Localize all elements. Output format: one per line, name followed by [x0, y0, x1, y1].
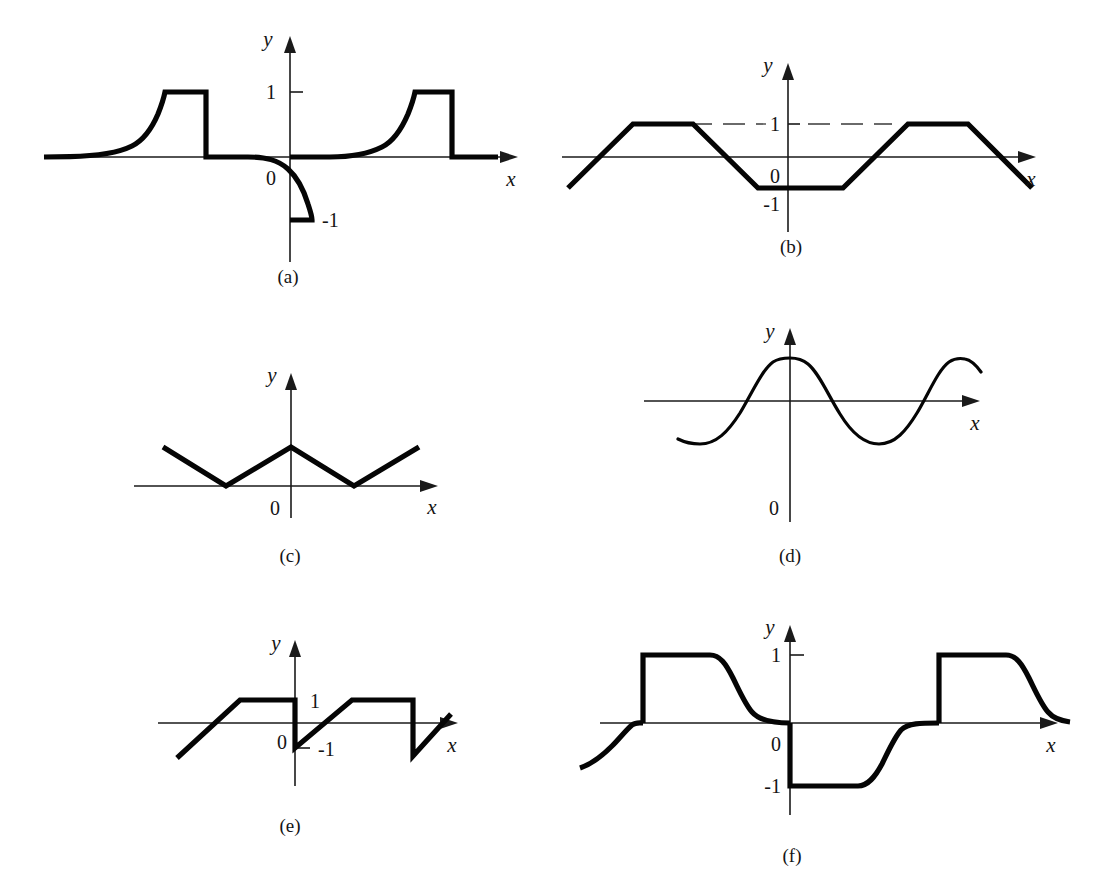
x-axis-c: [134, 480, 438, 492]
y-axis-b: [782, 63, 794, 232]
tick-label-zero-a: 0: [266, 167, 276, 189]
curve-a: [44, 92, 312, 220]
tick-label-zero-d: 0: [769, 497, 779, 519]
curve-f-negative: [790, 723, 939, 786]
caption-f: (f): [783, 845, 802, 867]
caption-b: (b): [780, 236, 802, 258]
y-axis-label-f: y: [763, 615, 775, 639]
tick-label-one-f: 1: [771, 644, 781, 666]
y-axis-label-d: y: [763, 319, 775, 343]
x-axis-label-d: x: [969, 411, 980, 435]
y-axis-label-c: y: [265, 363, 277, 387]
tick-label-one-e: 1: [310, 690, 320, 712]
x-axis-f: [600, 717, 1058, 729]
tick-label-neg-one-a: -1: [322, 209, 339, 231]
curve-b: [568, 124, 1032, 188]
caption-a: (a): [277, 266, 298, 288]
x-axis-label-e: x: [446, 733, 457, 757]
tick-label-zero-c: 0: [270, 497, 280, 519]
tick-label-one-b: 1: [770, 113, 780, 135]
caption-e: (e): [279, 815, 300, 837]
tick-label-one-a: 1: [266, 81, 276, 103]
tick-label-neg-one-f: -1: [764, 775, 781, 797]
panel-b: y x 1 0 -1 (b): [540, 0, 1108, 300]
caption-d: (d): [779, 545, 801, 567]
tick-label-zero-e: 0: [277, 731, 287, 753]
panel-d: y x 0 (d): [540, 300, 1108, 590]
curve-f-left-tail: [580, 723, 643, 768]
x-axis-label-f: x: [1045, 733, 1056, 757]
panel-f: y x 1 0 -1 (f): [540, 590, 1108, 887]
x-axis-d: [644, 395, 980, 407]
tick-label-zero-f: 0: [771, 733, 781, 755]
panel-c: y x 0 (c): [0, 300, 554, 590]
y-axis-a: [284, 36, 296, 262]
panel-e: y x 1 0 -1 (e): [0, 590, 554, 887]
x-axis-label-c: x: [426, 495, 437, 519]
curve-f-right-pulse: [939, 655, 1070, 723]
caption-c: (c): [279, 545, 300, 567]
tick-label-neg-one-b: -1: [763, 193, 780, 215]
x-axis-label-b: x: [1025, 167, 1036, 191]
figure-sheet: y x 1 0 -1 (a): [0, 0, 1108, 887]
x-axis-label-a: x: [505, 167, 516, 191]
y-axis-label-e: y: [269, 631, 281, 655]
curve-a-tail: [290, 92, 498, 157]
x-axis-b: [562, 151, 1036, 163]
tick-label-zero-b: 0: [770, 165, 780, 187]
y-axis-label-a: y: [261, 27, 273, 51]
curve-f-left-pulse: [643, 655, 790, 723]
panel-a: y x 1 0 -1 (a): [0, 0, 554, 300]
y-axis-label-b: y: [761, 53, 773, 77]
tick-label-neg-one-e: -1: [318, 738, 335, 760]
